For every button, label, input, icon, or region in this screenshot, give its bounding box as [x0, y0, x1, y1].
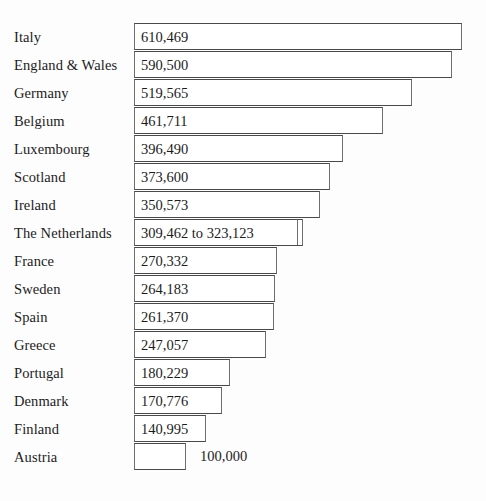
bar-value-label: 610,469 — [141, 24, 188, 51]
bar: 170,776 — [134, 387, 222, 414]
category-label: Denmark — [14, 387, 69, 415]
chart-row: Finland140,995 — [0, 415, 486, 443]
bar-value-label: 590,500 — [141, 52, 188, 79]
bar-value-label: 519,565 — [141, 80, 188, 107]
chart-row: France270,332 — [0, 247, 486, 275]
chart-row: Germany519,565 — [0, 79, 486, 107]
bar: 261,370 — [134, 303, 274, 330]
bar-value-label: 170,776 — [141, 388, 188, 415]
chart-row: Belgium461,711 — [0, 107, 486, 135]
bar-value-label: 309,462 to 323,123 — [141, 220, 254, 247]
bar-value-label: 396,490 — [141, 136, 188, 163]
chart-row: Scotland373,600 — [0, 163, 486, 191]
bar-value-label: 350,573 — [141, 192, 188, 219]
category-label: Ireland — [14, 191, 56, 219]
bar: 461,711 — [134, 107, 383, 134]
chart-row: The Netherlands309,462 to 323,123 — [0, 219, 486, 247]
bar-value-label: 261,370 — [141, 304, 188, 331]
bar-value-label: 140,995 — [141, 416, 188, 443]
bar: 610,469 — [134, 23, 462, 50]
chart-row: Austria100,000 — [0, 443, 486, 471]
bar-value-label: 247,057 — [141, 332, 188, 359]
category-label: Greece — [14, 331, 56, 359]
bar: 519,565 — [134, 79, 412, 106]
category-label: Luxembourg — [14, 135, 90, 163]
bar-value-label: 100,000 — [200, 443, 247, 470]
chart-row: Spain261,370 — [0, 303, 486, 331]
bar: 270,332 — [134, 247, 277, 274]
chart-row: Sweden264,183 — [0, 275, 486, 303]
bar: 590,500 — [134, 51, 452, 78]
bar: 396,490 — [134, 135, 343, 162]
category-label: Italy — [14, 23, 41, 51]
category-label: Finland — [14, 415, 59, 443]
bar: 264,183 — [134, 275, 275, 302]
chart-row: Greece247,057 — [0, 331, 486, 359]
bar-value-label: 264,183 — [141, 276, 188, 303]
bar: 309,462 to 323,123 — [134, 219, 303, 246]
category-label: Austria — [14, 443, 57, 471]
bar: 373,600 — [134, 163, 330, 190]
category-label: The Netherlands — [14, 219, 112, 247]
bar: 140,995 — [134, 415, 206, 442]
category-label: Scotland — [14, 163, 66, 191]
bar: 180,229 — [134, 359, 230, 386]
chart-row: Ireland350,573 — [0, 191, 486, 219]
chart-row: England & Wales590,500 — [0, 51, 486, 79]
category-label: Portugal — [14, 359, 64, 387]
category-label: Belgium — [14, 107, 65, 135]
bar-value-label: 373,600 — [141, 164, 188, 191]
bar — [134, 443, 186, 470]
chart-row: Portugal180,229 — [0, 359, 486, 387]
category-label: Germany — [14, 79, 69, 107]
bar-value-label: 180,229 — [141, 360, 188, 387]
chart-row: Denmark170,776 — [0, 387, 486, 415]
bar-value-label: 270,332 — [141, 248, 188, 275]
category-label: Sweden — [14, 275, 61, 303]
bar-value-label: 461,711 — [141, 108, 188, 135]
chart-row: Luxembourg396,490 — [0, 135, 486, 163]
bar-range-low-edge — [297, 220, 298, 245]
bar: 350,573 — [134, 191, 320, 218]
category-label: France — [14, 247, 54, 275]
chart-row: Italy610,469 — [0, 23, 486, 51]
category-label: England & Wales — [14, 51, 117, 79]
bar: 247,057 — [134, 331, 266, 358]
category-label: Spain — [14, 303, 48, 331]
horizontal-bar-chart: Italy610,469England & Wales590,500German… — [0, 0, 486, 501]
